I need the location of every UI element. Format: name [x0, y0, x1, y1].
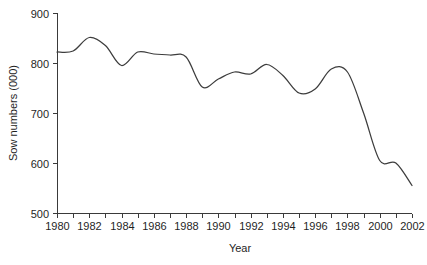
x-tick-label: 1986 — [142, 220, 166, 232]
x-tick-label: 1980 — [45, 220, 69, 232]
y-tick-label: 800 — [31, 58, 49, 70]
x-tick-label: 2002 — [400, 220, 424, 232]
x-axis-title: Year — [229, 242, 252, 254]
y-tick-label: 700 — [31, 108, 49, 120]
x-tick-label: 1990 — [206, 220, 230, 232]
x-tick-label: 1988 — [174, 220, 198, 232]
y-axis-title: Sow numbers (000) — [7, 65, 19, 161]
x-tick-label: 1994 — [271, 220, 295, 232]
x-tick-label: 1982 — [77, 220, 101, 232]
x-tick-label: 1996 — [303, 220, 327, 232]
x-tick-label: 1998 — [335, 220, 359, 232]
x-tick-label: 2000 — [368, 220, 392, 232]
x-tick-label: 1984 — [110, 220, 134, 232]
y-tick-label: 900 — [31, 8, 49, 20]
sow-numbers-line-chart: 500600700800900 198019821984198619881990… — [0, 0, 427, 265]
y-tick-label: 500 — [31, 208, 49, 220]
chart-container: 500600700800900 198019821984198619881990… — [0, 0, 427, 265]
y-tick-label: 600 — [31, 158, 49, 170]
x-tick-label: 1992 — [239, 220, 263, 232]
